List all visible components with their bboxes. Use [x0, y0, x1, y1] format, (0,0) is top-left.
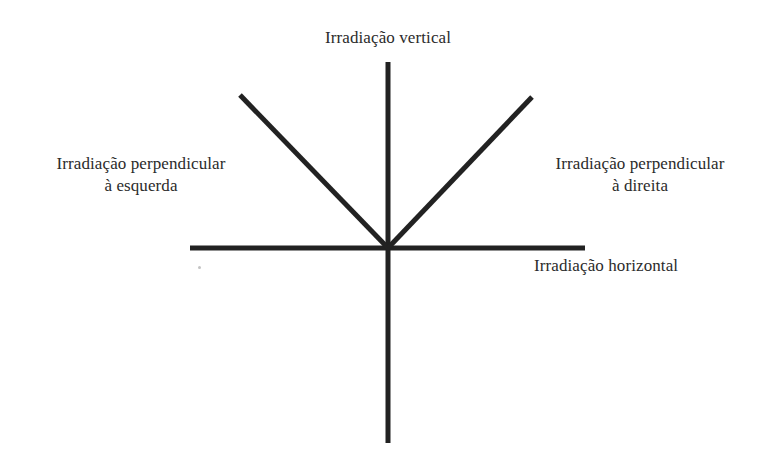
label-irradiacao-perpendicular-direita: Irradiação perpendicular à direita: [520, 153, 760, 198]
diagonal-upper-left-ray: [240, 95, 388, 248]
scan-speck-artifact: [198, 266, 201, 269]
label-irradiacao-vertical: Irradiação vertical: [248, 27, 528, 49]
diagonal-upper-right-ray: [388, 97, 532, 248]
label-irradiacao-perpendicular-esquerda: Irradiação perpendicular à esquerda: [21, 153, 261, 198]
label-irradiacao-horizontal: Irradiação horizontal: [534, 255, 764, 277]
irradiation-diagram: [0, 0, 772, 463]
figure-canvas: Irradiação vertical Irradiação perpendic…: [0, 0, 772, 463]
